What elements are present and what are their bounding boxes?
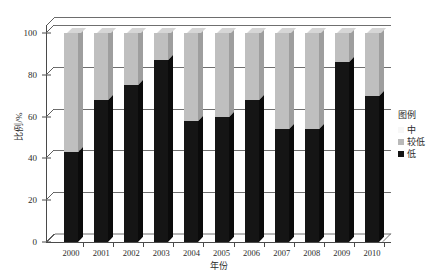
- bar-segment-side: [289, 124, 294, 242]
- bar-segment-low: [335, 62, 349, 242]
- legend-title: 图例: [398, 108, 425, 121]
- bar-column: [305, 33, 319, 242]
- bar-top-cap: [127, 28, 146, 33]
- bar-column: [154, 33, 168, 242]
- bar-segment-lower: [245, 33, 259, 100]
- bar-segment-low: [124, 85, 138, 242]
- bar-segment-low: [184, 121, 198, 242]
- x-tick-mark: [173, 243, 174, 247]
- x-tick-label: 2000: [63, 248, 80, 258]
- bar-column: [184, 33, 198, 242]
- bar-segment-low: [245, 100, 259, 242]
- bar-segment-lower: [184, 33, 198, 121]
- bar-segment-side: [138, 80, 143, 242]
- bar-segment-low: [305, 129, 319, 242]
- bar-segment-side: [259, 95, 264, 242]
- legend-item[interactable]: 较低: [398, 136, 425, 148]
- legend-swatch-lower: [398, 139, 404, 145]
- bar-segment-side: [78, 147, 83, 242]
- bar-column: [245, 33, 259, 242]
- bar-column: [64, 33, 78, 242]
- y-tick-label: 40: [28, 153, 37, 163]
- y-tick-label: 100: [24, 28, 38, 38]
- bar-segment-low: [154, 60, 168, 242]
- bar-segment-side: [229, 111, 234, 242]
- bar-segment-side: [198, 116, 203, 242]
- bar-column: [215, 33, 229, 242]
- bar-top-cap: [187, 28, 206, 33]
- plot-top-border: [54, 17, 391, 18]
- x-tick-label: 2005: [213, 248, 230, 258]
- x-tick-mark: [203, 243, 204, 247]
- bar-segment-lower: [154, 33, 168, 60]
- bar-segment-lower: [275, 33, 289, 129]
- bar-segment-side: [108, 95, 113, 242]
- bar-segment-side: [349, 57, 354, 242]
- bar-segment-side: [379, 91, 384, 242]
- x-tick-mark: [264, 243, 265, 247]
- x-tick-label: 2006: [243, 248, 260, 258]
- x-tick-label: 2010: [363, 248, 380, 258]
- y-tick-label: 20: [28, 195, 37, 205]
- bar-segment-side: [168, 55, 173, 242]
- bar-segment-lower: [64, 33, 78, 152]
- bar-segment-low: [215, 117, 229, 242]
- bar-segment-side: [289, 28, 294, 129]
- bar-segment-side: [349, 28, 354, 62]
- bar-segment-low: [365, 96, 379, 242]
- bar-segment-side: [138, 28, 143, 85]
- legend-items: 中较低低: [398, 124, 425, 160]
- bar-segment-lower: [215, 33, 229, 117]
- x-axis-title: 年份: [46, 259, 391, 272]
- bar-segment-low: [64, 152, 78, 242]
- x-tick-mark: [113, 243, 114, 247]
- x-tick-label: 2008: [303, 248, 320, 258]
- x-tick-mark: [324, 243, 325, 247]
- x-tick-mark: [143, 243, 144, 247]
- legend-label: 低: [407, 150, 416, 159]
- bar-column: [335, 33, 349, 242]
- x-tick-mark: [384, 243, 385, 247]
- legend-item[interactable]: 中: [398, 124, 425, 136]
- x-tick-label: 2001: [93, 248, 110, 258]
- bar-column: [124, 33, 138, 242]
- bar-segment-side: [319, 124, 324, 242]
- bar-series-group: [46, 25, 391, 243]
- bar-segment-side: [259, 28, 264, 100]
- bar-segment-side: [229, 28, 234, 117]
- bar-segment-low: [94, 100, 108, 242]
- x-tick-label: 2009: [333, 248, 350, 258]
- legend-swatch-mid: [398, 127, 404, 133]
- bar-segment-side: [379, 28, 384, 96]
- x-tick-label: 2004: [183, 248, 200, 258]
- y-tick-label: 0: [33, 237, 38, 247]
- bar-segment-lower: [124, 33, 138, 85]
- legend-label: 中: [407, 126, 416, 135]
- x-tick-label: 2007: [273, 248, 290, 258]
- bar-segment-side: [319, 28, 324, 129]
- legend-label: 较低: [407, 138, 425, 147]
- bar-segment-low: [275, 129, 289, 242]
- bar-segment-side: [78, 28, 83, 152]
- x-tick-mark: [234, 243, 235, 247]
- x-tick-mark: [83, 243, 84, 247]
- legend: 图例 中较低低: [398, 108, 425, 160]
- x-tick-mark: [294, 243, 295, 247]
- y-axis-title: 比例/%: [12, 97, 25, 157]
- bar-segment-lower: [94, 33, 108, 100]
- x-tick-label: 2002: [123, 248, 140, 258]
- x-tick-label: 2003: [153, 248, 170, 258]
- x-tick-mark: [354, 243, 355, 247]
- bar-segment-side: [108, 28, 113, 100]
- bar-segment-lower: [335, 33, 349, 62]
- y-tick-label: 60: [28, 112, 37, 122]
- bar-segment-lower: [305, 33, 319, 129]
- legend-item[interactable]: 低: [398, 148, 425, 160]
- plot-area: 020406080100 200020012002200320042005200…: [46, 25, 391, 243]
- legend-swatch-low: [398, 151, 404, 157]
- bar-column: [94, 33, 108, 242]
- bar-top-cap: [157, 28, 176, 33]
- stacked-bar-chart: 比例/% 020406080100 2000200120022003200420…: [0, 0, 440, 280]
- bar-segment-lower: [365, 33, 379, 96]
- y-tick-label: 80: [28, 70, 37, 80]
